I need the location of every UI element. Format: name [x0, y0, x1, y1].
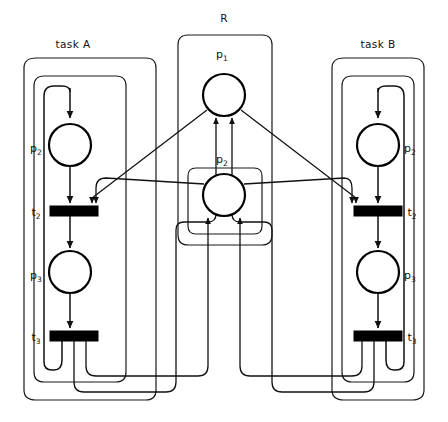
arc-p1-to-b-t2	[241, 110, 356, 203]
label-task-b-t3: t3	[407, 331, 416, 346]
place-resource-p2	[203, 174, 245, 216]
label-task-a-p3: p3	[30, 269, 42, 284]
label-resource-p2: p2	[216, 153, 228, 168]
label-task-a-t2: t2	[31, 206, 40, 221]
arc-a-t3-to-p1	[74, 118, 216, 392]
place-task-b-p2	[357, 124, 399, 166]
label-resource-p1: p1	[216, 48, 228, 63]
label-resource: R	[220, 12, 228, 24]
place-task-a-p2	[49, 124, 91, 166]
label-task-a-p2: p2	[30, 142, 42, 157]
transition-task-a-t3	[50, 331, 98, 341]
transition-task-b-t3	[354, 331, 402, 341]
place-task-b-p3	[357, 251, 399, 293]
transition-task-b-t2	[354, 206, 402, 216]
place-resource-p1	[203, 74, 245, 116]
label-task-b-t2: t2	[407, 206, 416, 221]
arc-b-t3-to-p1	[232, 118, 374, 392]
transition-task-a-t2	[50, 206, 98, 216]
petri-net-diagram: task A R task B p2 p3 p1 p2 p2 p3 t2 t3 …	[0, 0, 448, 422]
arc-b-t3-to-rp2	[240, 218, 362, 376]
t3-to-rp2-arcs	[86, 218, 362, 376]
petri-net-canvas: task A R task B p2 p3 p1 p2 p2 p3 t2 t3 …	[0, 0, 448, 422]
label-task-a: task A	[55, 38, 90, 50]
label-task-b: task B	[360, 38, 395, 50]
arc-a-t3-to-rp2	[86, 218, 208, 376]
transitions-layer	[50, 206, 402, 341]
place-task-a-p3	[49, 251, 91, 293]
arc-p1-to-a-t2	[92, 110, 207, 203]
label-task-a-t3: t3	[31, 331, 40, 346]
places-layer	[49, 74, 399, 293]
